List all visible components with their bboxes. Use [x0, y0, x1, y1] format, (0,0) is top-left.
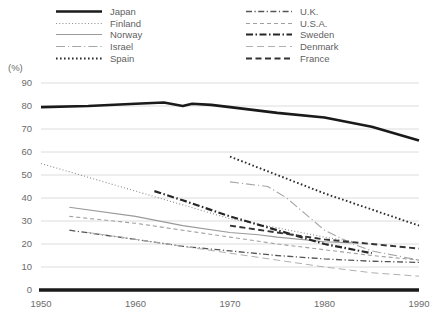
y-tick-label-80: 80 — [6, 100, 32, 111]
series-line-uk — [69, 230, 419, 262]
y-tick-label-0: 0 — [6, 284, 32, 295]
y-axis-unit-label: (%) — [8, 62, 23, 73]
y-tick-label-50: 50 — [6, 169, 32, 180]
series-line-denmark — [88, 233, 419, 277]
y-tick-label-10: 10 — [6, 261, 32, 272]
y-tick-label-60: 60 — [6, 146, 32, 157]
x-tick-label-1990: 1990 — [399, 298, 433, 309]
x-tick-label-1960: 1960 — [116, 298, 156, 309]
chart-container: JapanFinlandNorwayIsraelSpain U.K.U.S.A.… — [0, 0, 433, 319]
series-line-spain — [230, 157, 419, 226]
x-tick-label-1970: 1970 — [210, 298, 250, 309]
y-tick-label-90: 90 — [6, 77, 32, 88]
grid-lines — [41, 83, 419, 267]
plot-svg — [0, 0, 433, 319]
series-line-japan — [41, 103, 419, 141]
plot-area: (%) 0102030405060708090 1950196019701980… — [0, 0, 433, 319]
x-tick-label-1980: 1980 — [305, 298, 345, 309]
series-line-france — [230, 226, 419, 249]
x-tick-label-1950: 1950 — [21, 298, 61, 309]
y-tick-label-70: 70 — [6, 123, 32, 134]
y-tick-label-40: 40 — [6, 192, 32, 203]
y-tick-label-20: 20 — [6, 238, 32, 249]
series-line-usa — [69, 216, 419, 260]
y-tick-label-30: 30 — [6, 215, 32, 226]
